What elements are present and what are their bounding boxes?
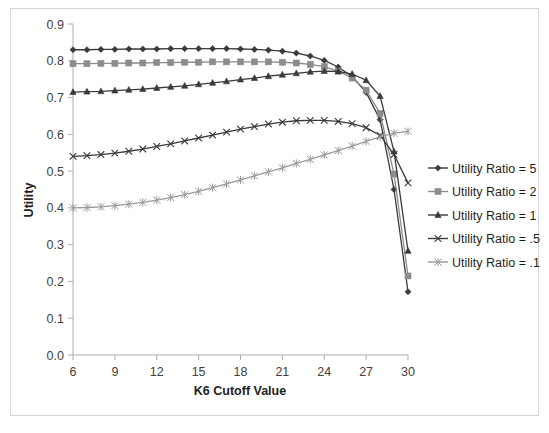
series-3 [70,117,412,186]
data-point-marker-square [435,189,441,195]
data-point-marker-square [70,61,76,67]
y-tick-label: 0.6 [47,128,64,142]
data-point-marker-triangle [405,248,411,254]
data-point-marker-diamond [435,165,441,171]
x-tick-label: 6 [70,365,77,379]
data-point-marker-diamond [182,46,188,52]
data-point-marker-asterisk [293,159,300,167]
data-point-marker-diamond [84,47,90,53]
data-point-marker-cross [405,180,412,187]
y-axis-tick-group: 0.00.10.20.30.40.50.60.70.80.9 [47,18,73,363]
legend-label: Utility Ratio = 2 [452,185,536,199]
data-point-marker-diamond [140,46,146,52]
y-tick-label: 0.8 [47,54,64,68]
x-tick-label: 15 [192,365,206,379]
x-tick-label: 18 [234,365,248,379]
series-4 [70,127,412,212]
data-point-marker-square [363,87,369,93]
legend-label: Utility Ratio = .5 [452,232,540,246]
legend-item-4[interactable]: Utility Ratio = .1 [428,256,540,270]
series-2 [70,68,411,254]
utility-vs-k6-cutoff-line-chart: 0.00.10.20.30.40.50.60.70.80.9 691215182… [0,0,549,433]
data-point-marker-square [293,60,299,66]
x-tick-label: 27 [359,365,373,379]
x-tick-label: 12 [150,365,164,379]
x-tick-label: 9 [111,365,118,379]
data-point-marker-diamond [321,57,327,63]
y-tick-label: 0.4 [47,201,64,215]
data-point-marker-square [196,59,202,65]
data-point-marker-diamond [265,47,271,53]
x-tick-label: 21 [275,365,289,379]
chart-figure: 0.00.10.20.30.40.50.60.70.80.9 691215182… [0,0,549,433]
y-tick-label: 0.9 [47,18,64,32]
data-point-marker-square [84,61,90,67]
data-point-marker-diamond [237,46,243,52]
data-point-marker-diamond [196,46,202,52]
data-point-marker-asterisk [251,172,258,180]
series-1 [70,59,411,279]
legend-item-0[interactable]: Utility Ratio = 5 [428,162,536,176]
data-point-marker-diamond [279,48,285,54]
data-point-marker-asterisk [363,137,370,145]
data-point-marker-diamond [112,46,118,52]
data-point-marker-square [98,60,104,66]
x-tick-label: 24 [317,365,331,379]
legend-item-2[interactable]: Utility Ratio = 1 [428,209,536,223]
data-point-marker-square [182,59,188,65]
data-point-marker-square [210,59,216,65]
data-point-marker-square [224,59,230,65]
data-point-marker-asterisk [349,142,356,150]
legend-label: Utility Ratio = 5 [452,162,536,176]
data-point-marker-diamond [126,46,132,52]
series-line [73,62,408,276]
data-point-marker-square [377,110,383,116]
data-point-marker-diamond [293,50,299,56]
data-point-marker-asterisk [279,164,286,172]
data-point-marker-square [112,60,118,66]
y-tick-label: 0.2 [47,275,64,289]
data-point-marker-asterisk [237,176,244,184]
legend-item-1[interactable]: Utility Ratio = 2 [428,185,536,199]
data-point-marker-square [168,60,174,66]
series-group [70,46,412,295]
series-line [73,71,408,251]
data-point-marker-diamond [154,46,160,52]
data-point-marker-diamond [405,289,411,295]
data-point-marker-square [238,59,244,65]
data-point-marker-square [279,59,285,65]
y-tick-label: 0.1 [47,312,64,326]
data-point-marker-square [265,59,271,65]
data-point-marker-square [251,59,257,65]
legend-label: Utility Ratio = .1 [452,256,540,270]
data-point-marker-asterisk [335,146,342,154]
series-line [73,49,408,292]
series-0 [70,46,411,295]
data-point-marker-square [391,171,397,177]
data-point-marker-square [140,60,146,66]
data-point-marker-square [154,60,160,66]
data-point-marker-diamond [168,46,174,52]
data-point-marker-asterisk [321,151,328,159]
data-point-marker-asterisk [265,168,272,176]
series-line [73,131,408,208]
data-point-marker-diamond [251,46,257,52]
data-point-marker-square [307,61,313,67]
data-point-marker-diamond [70,47,76,53]
x-axis-title: K6 Cutoff Value [194,384,286,398]
y-tick-label: 0.7 [47,91,64,105]
data-point-marker-diamond [98,46,104,52]
data-point-marker-diamond [223,46,229,52]
data-point-marker-diamond [307,53,313,59]
x-axis-tick-group: 6912151821242730 [70,355,415,379]
data-point-marker-diamond [209,46,215,52]
data-point-marker-square [405,273,411,279]
legend-label: Utility Ratio = 1 [452,209,536,223]
y-axis-title: Utility [22,183,36,218]
x-tick-label: 30 [401,365,415,379]
data-point-marker-square [126,60,132,66]
chart-legend: Utility Ratio = 5Utility Ratio = 2Utilit… [428,162,540,270]
data-point-marker-asterisk [307,155,314,163]
y-tick-label: 0.5 [47,165,64,179]
legend-item-3[interactable]: Utility Ratio = .5 [428,232,540,246]
